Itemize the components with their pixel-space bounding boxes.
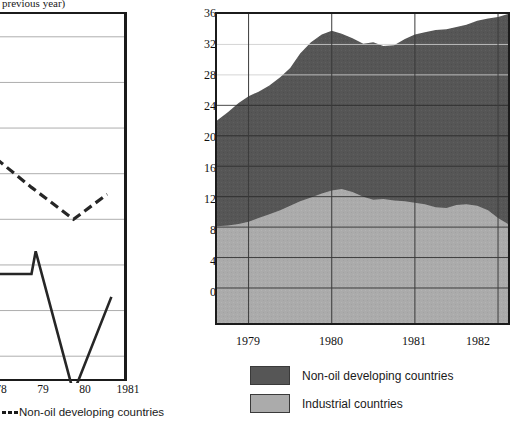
right-chart-svg xyxy=(217,14,508,323)
left-chart-x-axis: 78 79 80 1981 xyxy=(0,383,127,401)
legend-swatch-light xyxy=(250,394,290,413)
left-chart-gridlines xyxy=(0,37,124,356)
right-chart-y-axis: 36 32 28 24 20 16 12 8 4 0 xyxy=(190,0,216,330)
left-chart-line-dashed xyxy=(0,153,107,219)
left-chart-subtitle-fragment: previous year) xyxy=(2,0,65,9)
dashed-line-icon xyxy=(2,411,18,414)
legend-swatch-dark xyxy=(250,366,290,385)
right-xtick-1979: 1979 xyxy=(236,334,260,349)
left-chart-plot-area xyxy=(0,12,127,381)
left-chart-svg xyxy=(0,14,127,383)
right-chart-legend: Non-oil developing countries Industrial … xyxy=(250,366,453,422)
right-chart-x-axis: 1979 1980 1981 1982 xyxy=(215,334,510,354)
left-xtick-79: 79 xyxy=(37,383,49,395)
legend-label-industrial: Industrial countries xyxy=(302,397,403,411)
right-xtick-1981: 1981 xyxy=(402,334,426,349)
left-line-chart: previous year) 78 79 80 1981 Non-oil dev… xyxy=(0,0,190,444)
left-xtick-1981: 1981 xyxy=(117,383,140,395)
right-xtick-1980: 1980 xyxy=(319,334,343,349)
legend-label-non-oil-developing: Non-oil developing countries xyxy=(302,369,453,383)
left-xtick-80: 80 xyxy=(79,383,91,395)
right-chart-plot-area xyxy=(215,12,510,325)
left-chart-legend: Non-oil developing countries xyxy=(2,406,164,418)
figure-canvas: previous year) 78 79 80 1981 Non-oil dev… xyxy=(0,0,531,444)
legend-item-industrial: Industrial countries xyxy=(250,394,453,413)
right-stacked-area-chart: 36 32 28 24 20 16 12 8 4 0 xyxy=(190,0,531,444)
left-legend-label: Non-oil developing countries xyxy=(19,406,164,418)
right-xtick-1982: 1982 xyxy=(466,334,490,349)
left-xtick-78: 78 xyxy=(0,383,7,395)
left-chart-line-solid xyxy=(0,171,111,383)
legend-item-non-oil-developing: Non-oil developing countries xyxy=(250,366,453,385)
